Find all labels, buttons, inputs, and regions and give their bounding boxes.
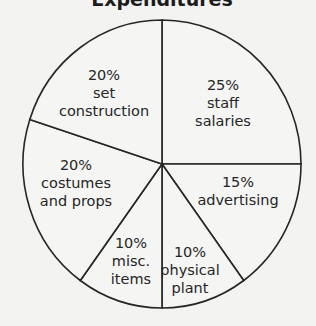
slice-name-line: plant [172, 280, 209, 296]
slice-name-line: salaries [195, 113, 251, 129]
slice-name-line: and props [40, 193, 112, 209]
slice-name-line: costumes [41, 175, 111, 191]
slice-value-label: 10% [115, 235, 147, 251]
slice-value-label: 10% [174, 244, 206, 260]
slice-name-line: physical [160, 262, 219, 278]
chart-title: Expenditures [91, 0, 233, 10]
pie-chart: Expenditures 25% staff salaries 15% adve… [0, 0, 316, 326]
slice-label-misc-items: 10% misc. items [111, 235, 151, 287]
slice-value-label: 25% [207, 77, 239, 93]
slice-value-label: 20% [88, 67, 120, 83]
slice-name-line: staff [207, 95, 240, 111]
slice-value-label: 15% [222, 174, 254, 190]
slice-name-line: items [111, 271, 151, 287]
slice-name-line: misc. [112, 253, 150, 269]
slice-value-label: 20% [60, 157, 92, 173]
slice-name-line: advertising [197, 192, 278, 208]
slice-name-line: set [93, 85, 115, 101]
slice-name-line: construction [59, 103, 149, 119]
